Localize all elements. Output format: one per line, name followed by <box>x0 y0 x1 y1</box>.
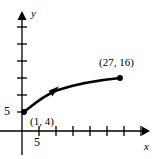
coordinate-graph-figure: y x 5 5 (1, 4) (27, 16) <box>0 0 155 159</box>
data-point-marker-a <box>21 109 27 115</box>
arrow-right-icon <box>142 127 150 136</box>
y-axis-group <box>17 11 27 155</box>
x-axis-tick-label-5: 5 <box>34 136 40 148</box>
y-axis-label: y <box>31 8 36 19</box>
data-curve <box>24 78 120 112</box>
data-points-group <box>21 75 123 115</box>
data-point-label-start: (1, 4) <box>30 116 54 127</box>
graph-canvas <box>0 0 155 159</box>
arrow-up-icon <box>18 11 27 20</box>
y-axis-tick-label-5: 5 <box>4 105 10 117</box>
x-axis-label: x <box>144 141 149 152</box>
data-point-label-end: (27, 16) <box>99 57 134 68</box>
data-curve-group <box>24 78 120 112</box>
data-point-marker-b <box>117 75 123 81</box>
